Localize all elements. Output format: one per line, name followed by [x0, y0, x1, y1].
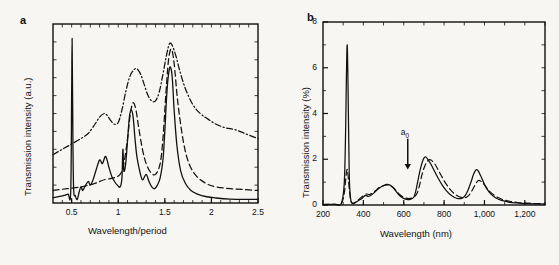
panel-b-series: [323, 45, 545, 206]
panel-b-x-tick-label: 200: [303, 209, 343, 219]
panel-b-x-tick-label: 600: [384, 209, 424, 219]
panel-a-series: [53, 38, 258, 200]
panel-b-x-tick-label: 1,200: [505, 209, 545, 219]
panel-b-a0-label: a0: [401, 127, 409, 139]
panel-b-x-axis-title: Wavelength (nm): [380, 228, 452, 239]
panel-b-annotation-arrow: [405, 139, 411, 170]
panel-b: b 2004006008001,0001,200 02468 a0 Wavele…: [280, 0, 559, 265]
panel-a-x-tick-label: 2: [191, 207, 231, 217]
panel-a-curve-dashed: [53, 49, 258, 190]
panel-a-x-tick-label: 0.5: [52, 207, 92, 217]
panel-a-minor-ticks: [53, 24, 258, 203]
panel-b-y-tick-label: 0: [297, 199, 317, 209]
panel-b-y-tick-label: 6: [297, 62, 317, 72]
panel-b-x-tick-label: 800: [424, 209, 464, 219]
panel-a-y-axis-title: Transmission intensity (a.u.): [22, 78, 33, 196]
panel-b-curve-solid: [323, 45, 545, 206]
panel-b-minor-ticks: [323, 22, 545, 205]
panel-b-plot: [280, 0, 559, 265]
panel-a-axes: [53, 24, 258, 203]
panel-b-x-tick-label: 400: [343, 209, 383, 219]
panel-a-x-tick-label: 1.5: [145, 207, 185, 217]
figure-container: a 0.511.522.5 Wavelength/period Transmis…: [0, 0, 559, 265]
panel-b-y-axis-title: Transmission intensity (%): [300, 87, 311, 198]
panel-a-curve-solid: [53, 38, 258, 200]
panel-b-y-ticks: [323, 22, 328, 205]
panel-b-curve-dashed: [323, 160, 545, 205]
panel-b-x-tick-label: 1,000: [464, 209, 504, 219]
panel-a-x-tick-label: 2.5: [238, 207, 278, 217]
panel-a-curve-dashdot: [53, 43, 258, 155]
panel-a: a 0.511.522.5 Wavelength/period Transmis…: [0, 0, 280, 265]
panel-a-x-axis-title: Wavelength/period: [88, 225, 167, 236]
panel-b-axes: [323, 22, 545, 205]
panel-b-y-tick-label: 8: [297, 16, 317, 26]
panel-a-x-tick-label: 1: [98, 207, 138, 217]
